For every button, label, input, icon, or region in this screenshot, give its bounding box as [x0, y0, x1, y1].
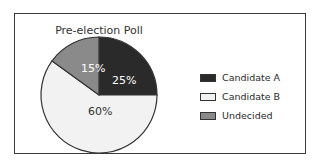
legend-label: Candidate A — [222, 72, 280, 83]
legend-swatch — [200, 112, 216, 120]
slice-label: 25% — [112, 74, 136, 87]
legend-label: Candidate B — [222, 91, 280, 102]
legend-item-candidate-a: Candidate A — [200, 68, 280, 87]
legend-label: Undecided — [222, 110, 273, 121]
legend-swatch — [200, 93, 216, 101]
slice-label: 60% — [88, 105, 112, 118]
legend: Candidate A Candidate B Undecided — [200, 68, 280, 125]
legend-swatch — [200, 74, 216, 82]
legend-item-undecided: Undecided — [200, 106, 280, 125]
legend-item-candidate-b: Candidate B — [200, 87, 280, 106]
slice-label: 15% — [81, 62, 105, 75]
